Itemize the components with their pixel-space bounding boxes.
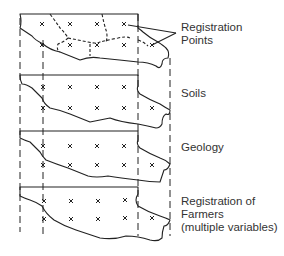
label-soils: Soils [181,87,206,100]
label-geology: Geology [181,141,224,154]
label-farmers: Registration of Farmers (multiple variab… [181,195,278,234]
label-registration-points: Registration Points [181,21,242,47]
